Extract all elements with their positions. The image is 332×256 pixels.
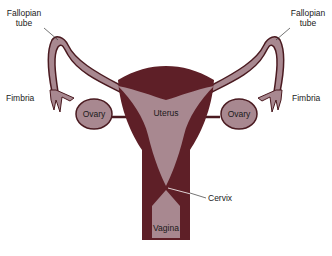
label-uterus: Uterus	[148, 108, 184, 118]
fimbria-right	[258, 90, 282, 112]
label-fimbria-left: Fimbria	[6, 93, 34, 103]
label-text: tube	[2, 18, 46, 28]
leader-cervix-outer	[190, 193, 206, 198]
leader-fallopian-left	[44, 28, 58, 40]
fimbria-left	[50, 90, 74, 112]
fallopian-tube-right	[212, 37, 284, 92]
label-ovary-right: Ovary	[224, 109, 254, 119]
label-fallopian-tube-left: Fallopian tube	[2, 8, 46, 28]
label-text: Fallopian	[286, 8, 330, 18]
label-text: tube	[286, 18, 330, 28]
fallopian-tube-left	[48, 37, 120, 92]
label-ovary-left: Ovary	[79, 109, 109, 119]
label-vagina: Vagina	[146, 223, 186, 233]
uterine-cavity	[118, 86, 214, 186]
label-cervix: Cervix	[208, 193, 232, 203]
label-fimbria-right: Fimbria	[292, 93, 320, 103]
anatomy-illustration	[0, 0, 332, 256]
reproductive-system-diagram: Fallopian tube Fallopian tube Fimbria Fi…	[0, 0, 332, 256]
label-fallopian-tube-right: Fallopian tube	[286, 8, 330, 28]
leader-fallopian-right	[276, 28, 290, 40]
label-text: Fallopian	[2, 8, 46, 18]
